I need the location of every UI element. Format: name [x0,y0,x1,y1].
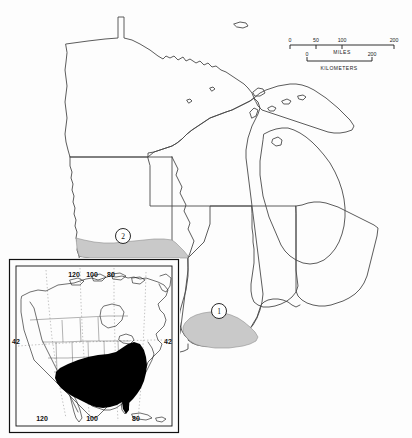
inset-lat-left-42: 42 [12,338,20,345]
scale-miles-tick-50: 50 [313,37,319,43]
island-beaver [272,137,282,146]
scale-kilometers [307,57,372,61]
inset-lon-top-100: 100 [86,271,98,278]
scale-bar: 0 50 100 200 MILES 0 200 KILOMETERS [286,33,406,77]
inset-background [8,258,180,434]
state-wisconsin [148,98,260,206]
island-keweenaw [253,88,265,96]
locality-marker-2: 2 [116,229,131,244]
state-michigan-lower [260,128,345,264]
island-upper-2 [282,99,291,104]
state-ohio [296,202,378,306]
inset-lat-right-42: 42 [164,338,172,345]
state-michigan-upper [254,84,354,133]
scale-miles-tick-200: 200 [390,37,399,43]
scale-kilometers-unit: KILOMETERS [320,65,357,71]
island-isle-royale [234,22,248,28]
scale-miles-unit: MILES [333,49,351,55]
state-minnesota [65,17,254,157]
state-north-dakota [66,44,148,157]
scale-km-tick-200: 200 [368,51,377,57]
inset-lon-bottom-100: 100 [86,415,98,422]
scale-miles-tick-0: 0 [289,37,292,43]
inset-lon-bottom-80: 80 [132,415,140,422]
island-upper-1 [268,106,276,111]
island-small-a [187,99,192,103]
map-figure: 1 2 0 50 100 200 MILES [0,0,412,438]
inset-lon-top-80: 80 [107,271,115,278]
scale-miles-tick-100: 100 [338,37,347,43]
inset-map: 120 100 80 120 100 80 42 42 [8,258,180,434]
scale-km-tick-0: 0 [306,51,309,57]
locality-label-1: 1 [217,307,221,316]
inset-lon-top-120: 120 [68,271,80,278]
locality-marker-1: 1 [212,304,227,319]
shade-iowa-southern-band [76,238,188,258]
locality-label-2: 2 [121,232,125,241]
island-small-b [210,87,215,91]
island-upper-3 [298,95,306,100]
inset-lon-bottom-120: 120 [36,415,48,422]
